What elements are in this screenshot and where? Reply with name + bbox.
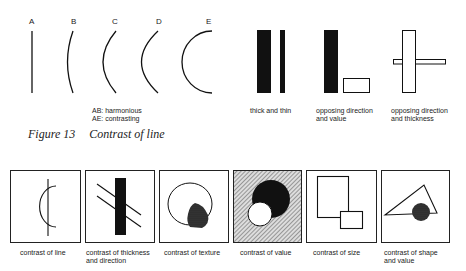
curve-c [103, 31, 116, 93]
panel-caption-line: contrast of line [20, 249, 66, 257]
label-d: D [156, 17, 162, 26]
label-c: C [112, 17, 118, 26]
legend-contrasting: AE: contrasting [92, 115, 142, 123]
panel-contrast-of-line [11, 171, 81, 243]
panel-contrast-of-value [234, 171, 302, 243]
caption-direction-value: opposing direction and value [316, 107, 373, 123]
curve-d [142, 31, 159, 93]
panel-caption-thickness: contrast of thickness and direction [86, 249, 150, 265]
panel-caption-value: contrast of value [240, 249, 291, 257]
panel-caption-shape: contrast of shape and value [384, 249, 438, 265]
panel-contrast-of-thickness [86, 171, 155, 243]
label-a: A [29, 17, 34, 26]
label-e: E [206, 17, 211, 26]
caption-direction-thickness: opposing direction and thickness [391, 107, 448, 123]
label-b: B [71, 17, 76, 26]
legend-text: AB: harmonious AE: contrasting [92, 107, 142, 123]
figure-number: Figure 13 [28, 127, 75, 141]
caption-thick-thin: thick and thin [250, 107, 291, 115]
panel-contrast-of-size [307, 171, 377, 243]
legend-harmonious: AB: harmonious [92, 107, 142, 115]
panel-caption-size: contrast of size [313, 249, 360, 257]
panel-caption-texture: contrast of texture [164, 249, 220, 257]
figure-title: Contrast of line [89, 127, 164, 141]
direction-thickness-shapes [394, 31, 446, 93]
figure-caption: Figure 13Contrast of line [28, 127, 165, 142]
curve-b [68, 31, 74, 93]
thick-thin-bars [257, 30, 285, 93]
panel-contrast-of-texture [160, 171, 229, 243]
curve-e [182, 31, 212, 93]
direction-value-shapes [324, 30, 370, 93]
panel-contrast-of-shape [382, 171, 450, 243]
